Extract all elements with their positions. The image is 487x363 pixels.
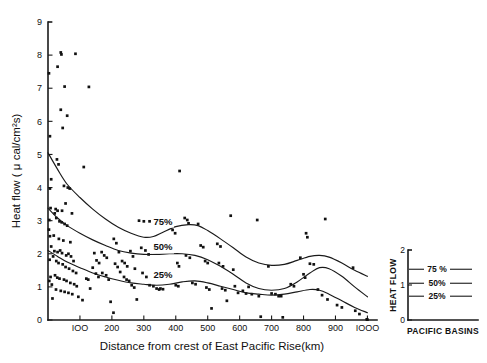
y-tick-label: 5: [37, 150, 42, 160]
data-point: [171, 229, 174, 232]
data-point: [138, 219, 141, 222]
x-tick-label: 800: [296, 323, 311, 333]
data-point: [56, 158, 59, 161]
y-axis-title: Heat flow ( μ cal/cm²s): [10, 114, 22, 229]
data-point: [55, 288, 58, 291]
data-point: [50, 178, 53, 181]
inset-series-label: 50%: [428, 278, 445, 288]
x-tick-label: 200: [104, 323, 119, 333]
data-point: [129, 250, 132, 253]
y-tick-label: 1: [37, 282, 42, 292]
data-point: [57, 262, 60, 265]
x-axis-title: Distance from crest of East Pacific Rise…: [100, 340, 324, 352]
data-point: [72, 260, 75, 263]
data-point: [61, 263, 64, 266]
data-point: [204, 260, 207, 263]
inset-y-ticks: 012: [400, 245, 412, 325]
data-point: [59, 249, 62, 252]
data-point: [48, 72, 51, 75]
data-point: [60, 53, 63, 56]
data-point: [56, 209, 59, 212]
data-point: [270, 292, 273, 295]
data-point: [89, 287, 92, 290]
data-point: [142, 220, 145, 223]
data-point: [49, 235, 52, 238]
data-point: [91, 266, 94, 269]
data-point: [202, 246, 205, 249]
inset-series-label: 25%: [428, 291, 445, 301]
main-axes: [48, 22, 377, 320]
data-point: [66, 114, 69, 117]
data-point: [133, 286, 136, 289]
data-point: [51, 297, 54, 300]
data-point: [105, 256, 108, 259]
data-point: [54, 274, 57, 277]
x-tick-label: 900: [328, 323, 343, 333]
data-point: [293, 285, 296, 288]
heat-flow-figure: 0123456789 IOO200300400500600700800900IO…: [0, 0, 487, 363]
data-point: [232, 268, 235, 271]
data-point: [59, 290, 62, 293]
data-point: [259, 315, 262, 318]
data-point: [178, 170, 181, 173]
data-point: [77, 295, 80, 298]
data-point: [74, 52, 77, 55]
data-point: [56, 251, 59, 254]
data-point: [256, 219, 259, 222]
data-point: [144, 249, 147, 252]
data-point: [63, 291, 66, 294]
x-tick-label: 500: [200, 323, 215, 333]
data-point: [63, 185, 66, 188]
data-point: [341, 306, 344, 309]
x-tick-label: 700: [264, 323, 279, 333]
data-point: [72, 270, 75, 273]
data-point: [67, 252, 70, 255]
data-point: [148, 220, 151, 223]
data-point: [234, 285, 237, 288]
data-point: [140, 246, 143, 249]
data-point: [121, 260, 124, 263]
data-point: [229, 214, 232, 217]
data-point: [82, 166, 85, 169]
data-point: [221, 287, 224, 290]
data-point: [183, 217, 186, 220]
data-point: [194, 283, 197, 286]
data-point: [206, 262, 209, 265]
data-point: [70, 255, 73, 258]
data-point: [366, 318, 369, 321]
data-point: [191, 282, 194, 285]
data-point: [69, 241, 72, 244]
inset-y-tick-label: 1: [400, 280, 405, 290]
curve-label-25pct: 25%: [153, 269, 173, 280]
data-point: [100, 251, 103, 254]
y-tick-label: 2: [37, 249, 42, 259]
data-point: [112, 311, 115, 314]
y-tick-label: 7: [37, 83, 42, 93]
data-point: [123, 276, 126, 279]
data-point: [247, 286, 250, 289]
data-point: [81, 299, 84, 302]
data-point: [48, 280, 51, 283]
data-point: [87, 278, 90, 281]
data-point: [237, 292, 240, 295]
y-axis-ticks: 0123456789: [37, 17, 53, 325]
data-point: [199, 244, 202, 247]
data-point: [73, 283, 76, 286]
data-point: [174, 284, 177, 287]
pacific-basins-inset: 012 75 %50%25% HEAT FLOW PACIFIC BASINS: [388, 245, 479, 336]
data-point: [59, 108, 62, 111]
data-point: [114, 262, 117, 265]
data-point: [116, 266, 119, 269]
inset-series-layer: 75 %50%25%: [409, 264, 472, 301]
data-point: [48, 258, 51, 261]
data-point: [53, 250, 56, 253]
data-point: [62, 239, 65, 242]
data-point: [123, 262, 126, 265]
percentile-curve-labels: 75%50%25%: [152, 216, 174, 281]
data-point: [188, 256, 191, 259]
data-point: [88, 86, 91, 89]
data-point: [71, 212, 74, 215]
data-point: [162, 288, 165, 291]
y-tick-label: 9: [37, 17, 42, 27]
x-tick-label: 600: [232, 323, 247, 333]
